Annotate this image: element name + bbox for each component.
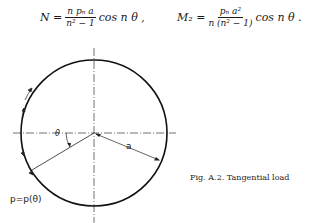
arc-arrowhead-icon xyxy=(67,143,71,147)
radius-label: a xyxy=(126,141,132,151)
theta-radius-line xyxy=(32,133,94,170)
radius-arrow-end-icon xyxy=(154,157,160,161)
load-label: p=p(θ) xyxy=(10,194,42,204)
figure-caption: Fig. A.2. Tangential load xyxy=(190,173,289,182)
theta-label: θ xyxy=(55,129,60,138)
radius-arrow-start-icon xyxy=(95,134,101,138)
ring-diagram xyxy=(0,0,311,223)
